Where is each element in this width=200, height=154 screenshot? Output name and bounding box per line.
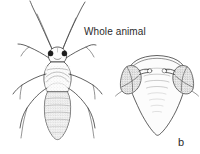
- whole-animal-caption: Whole animal: [84, 26, 146, 37]
- eye-right: [62, 51, 67, 56]
- head: [48, 47, 67, 62]
- insect-anatomy-figure: Whole animal: [0, 0, 200, 154]
- panel-label-b: b: [178, 136, 184, 148]
- figure-root: Whole animal: [0, 0, 200, 154]
- thorax: [44, 62, 71, 92]
- eye-left: [48, 51, 53, 56]
